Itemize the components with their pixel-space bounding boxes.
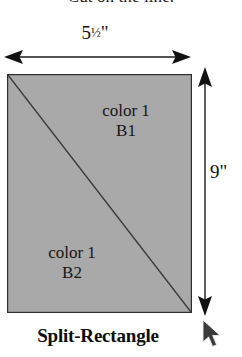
vertical-double-arrow: [198, 67, 212, 316]
width-dimension-fraction: ½: [91, 25, 101, 40]
height-dimension-label: 9": [210, 161, 227, 183]
instruction-caption: Cut on the line.: [0, 0, 242, 6]
horizontal-double-arrow: [4, 50, 191, 64]
piece-label-b2: color 1 B2: [24, 243, 120, 283]
width-dimension-label: 5½": [0, 22, 190, 44]
piece-label-b1: color 1 B1: [78, 101, 174, 141]
piece-b1-color: color 1: [78, 101, 174, 121]
piece-b1-id: B1: [78, 121, 174, 141]
width-dimension-unit: ": [101, 22, 109, 43]
diagram-canvas: Cut on the line. 5½" 9" color 1 B1 color…: [0, 0, 242, 357]
piece-b2-color: color 1: [24, 243, 120, 263]
width-dimension-number: 5: [82, 22, 92, 43]
piece-b2-id: B2: [24, 263, 120, 283]
mouse-pointer-icon: [202, 319, 224, 349]
shape-title: Split-Rectangle: [0, 324, 196, 348]
